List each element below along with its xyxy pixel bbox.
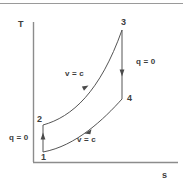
state-point-1-label: 1 [41, 153, 46, 162]
process-arrow-4-1-icon [85, 129, 92, 134]
process-label-v-const-lower: v = c [77, 136, 96, 144]
ts-diagram-canvas [0, 0, 183, 184]
process-arrow-1-2-icon [41, 133, 46, 140]
state-point-4-label: 4 [127, 94, 132, 103]
process-label-v-const-upper: v = c [65, 70, 84, 78]
state-point-2-label: 2 [37, 115, 42, 124]
ts-diagram-figure: T s 1 2 3 4 q = 0 q = 0 v = c v = c [0, 0, 183, 184]
x-axis-label: s [162, 171, 167, 180]
y-axis-label: T [18, 20, 24, 29]
process-label-q-zero-left: q = 0 [9, 134, 28, 142]
state-point-3-label: 3 [121, 18, 126, 27]
process-arrow-2-3-icon [82, 86, 89, 91]
process-arrow-3-4-icon [120, 70, 125, 77]
process-curve-4-1 [43, 99, 122, 152]
process-label-q-zero-right: q = 0 [136, 58, 155, 66]
